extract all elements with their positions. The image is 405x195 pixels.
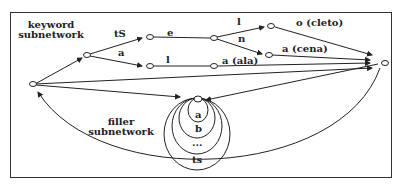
arc-label-o-cleto: o (cleto)	[296, 18, 343, 28]
filler-loop-ellipsis: ...	[192, 138, 202, 148]
start-node	[30, 82, 37, 87]
filler-subnetwork-label: filler subnetwork	[88, 117, 154, 137]
arc-label-e: e	[167, 28, 173, 38]
filler-loop-b: b	[195, 124, 202, 134]
filler-loop-ts: ts	[192, 155, 202, 165]
filler-line2: subnetwork	[88, 127, 154, 137]
arc-label-a-ala: a (ala)	[222, 56, 258, 66]
end-node	[382, 61, 389, 66]
arc-label-a: a	[118, 48, 124, 58]
arc-label-tS: tS	[114, 29, 126, 39]
arc-label-l-ala: l	[166, 55, 170, 65]
keyword-subnetwork-label: keyword subnetwork	[18, 20, 84, 40]
arc-label-n: n	[238, 34, 245, 44]
filler-node	[194, 96, 202, 102]
arc-label-l: l	[237, 17, 241, 27]
filler-loop-a: a	[195, 110, 201, 120]
keyword-line2: subnetwork	[18, 30, 84, 40]
arc-label-a-cena: a (cena)	[282, 44, 328, 54]
